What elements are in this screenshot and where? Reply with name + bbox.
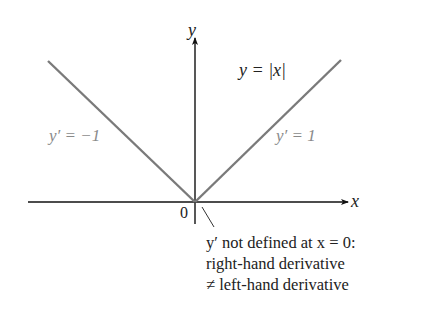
function-label: y = |x| [239,61,286,79]
graph-right-branch [195,60,341,202]
y-axis-label: y [188,21,196,39]
x-axis-label: x [351,192,359,210]
right-slope-label: y′ = 1 [276,127,316,144]
annotation-pointer [202,207,214,227]
annotation-text: y′ not defined at x = 0: right-hand deri… [206,232,355,295]
abs-value-derivative-diagram: y x 0 y = |x| y′ = −1 y′ = 1 y′ not defi… [0,0,427,313]
annotation-line-1: y′ not defined at x = 0: [206,232,355,253]
left-slope-label: y′ = −1 [49,127,100,144]
annotation-line-3: ≠ left-hand derivative [206,274,355,295]
annotation-line-2: right-hand derivative [206,253,355,274]
origin-label: 0 [180,205,188,221]
